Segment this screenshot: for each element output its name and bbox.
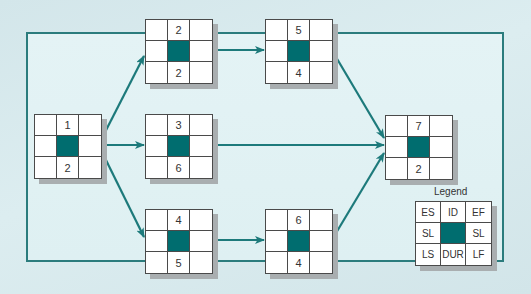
node-5-duration: 4 — [288, 62, 310, 83]
node-2-duration: 2 — [168, 62, 190, 83]
node-2-sl-right — [190, 41, 212, 62]
node-4-ls — [146, 252, 168, 273]
legend-center — [441, 223, 466, 244]
node-4-id: 4 — [168, 210, 190, 231]
node-7-ls — [386, 158, 408, 179]
node-4-lf — [190, 252, 212, 273]
node-3-id: 3 — [168, 115, 190, 136]
node-1-sl-left — [35, 136, 57, 157]
legend-es: ES — [416, 202, 441, 223]
node-5-ef — [310, 20, 332, 41]
node-5-ls — [266, 62, 288, 83]
node-6[interactable]: 6 4 — [265, 209, 333, 274]
node-6-center — [288, 231, 310, 252]
node-3-sl-left — [146, 136, 168, 157]
node-3-ls — [146, 157, 168, 178]
node-6-duration: 4 — [288, 252, 310, 273]
node-3-lf — [190, 157, 212, 178]
node-7-duration: 2 — [408, 158, 430, 179]
node-5-es — [266, 20, 288, 41]
legend-title: Legend — [434, 186, 467, 197]
node-3[interactable]: 3 6 — [145, 114, 213, 179]
node-7[interactable]: 7 2 — [385, 115, 453, 180]
node-7-sl-left — [386, 137, 408, 158]
node-6-sl-right — [310, 231, 332, 252]
legend-node: ES ID EF SL SL LS DUR LF — [415, 201, 492, 266]
legend-lf: LF — [466, 244, 491, 265]
node-4-center — [168, 231, 190, 252]
node-3-duration: 6 — [168, 157, 190, 178]
node-2-id: 2 — [168, 20, 190, 41]
node-4-sl-left — [146, 231, 168, 252]
node-1[interactable]: 1 2 — [34, 114, 102, 179]
legend-sl-right: SL — [466, 223, 491, 244]
node-2[interactable]: 2 2 — [145, 19, 213, 84]
node-7-ef — [430, 116, 452, 137]
node-2-ef — [190, 20, 212, 41]
node-6-ef — [310, 210, 332, 231]
node-1-lf — [79, 157, 101, 178]
node-1-ef — [79, 115, 101, 136]
node-7-id: 7 — [408, 116, 430, 137]
legend-sl-left: SL — [416, 223, 441, 244]
legend-dur: DUR — [441, 244, 466, 265]
legend-ls: LS — [416, 244, 441, 265]
node-3-sl-right — [190, 136, 212, 157]
node-6-sl-left — [266, 231, 288, 252]
node-3-ef — [190, 115, 212, 136]
node-1-sl-right — [79, 136, 101, 157]
node-4[interactable]: 4 5 — [145, 209, 213, 274]
node-5-lf — [310, 62, 332, 83]
node-5-center — [288, 41, 310, 62]
node-1-id: 1 — [57, 115, 79, 136]
node-1-duration: 2 — [57, 157, 79, 178]
legend-id: ID — [441, 202, 466, 223]
node-6-lf — [310, 252, 332, 273]
node-7-lf — [430, 158, 452, 179]
node-5-sl-left — [266, 41, 288, 62]
node-4-sl-right — [190, 231, 212, 252]
node-6-es — [266, 210, 288, 231]
node-4-duration: 5 — [168, 252, 190, 273]
node-6-ls — [266, 252, 288, 273]
node-3-es — [146, 115, 168, 136]
node-2-es — [146, 20, 168, 41]
node-2-sl-left — [146, 41, 168, 62]
legend-ef: EF — [466, 202, 491, 223]
node-1-center — [57, 136, 79, 157]
node-1-ls — [35, 157, 57, 178]
node-3-center — [168, 136, 190, 157]
node-5-id: 5 — [288, 20, 310, 41]
node-2-ls — [146, 62, 168, 83]
node-7-center — [408, 137, 430, 158]
node-5[interactable]: 5 4 — [265, 19, 333, 84]
node-6-id: 6 — [288, 210, 310, 231]
node-1-es — [35, 115, 57, 136]
node-4-es — [146, 210, 168, 231]
node-2-lf — [190, 62, 212, 83]
node-5-sl-right — [310, 41, 332, 62]
node-2-center — [168, 41, 190, 62]
node-7-sl-right — [430, 137, 452, 158]
node-7-es — [386, 116, 408, 137]
node-4-ef — [190, 210, 212, 231]
